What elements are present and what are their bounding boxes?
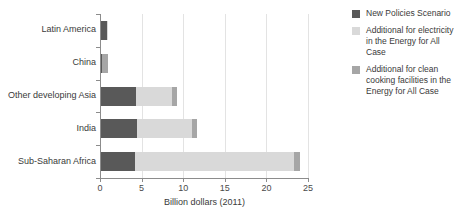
bar-segment — [137, 119, 192, 138]
category-label: Latin America — [0, 24, 96, 34]
legend: New Policies Scenario Additional for ele… — [352, 8, 456, 103]
legend-swatch-icon — [352, 10, 360, 18]
bar-row — [100, 21, 107, 40]
bar-segment — [172, 87, 177, 106]
bar-row — [100, 54, 108, 73]
x-tick — [100, 178, 101, 182]
gridline — [308, 14, 309, 178]
bar-segment — [136, 87, 173, 106]
x-axis-title: Billion dollars (2011) — [100, 197, 309, 207]
bar-segment — [135, 152, 294, 171]
x-tick-label: 5 — [139, 183, 144, 193]
bar-segment — [100, 87, 136, 106]
bar-segment — [294, 152, 300, 171]
category-label: India — [0, 123, 96, 133]
legend-label: Additional for electricity in the Energy… — [366, 25, 456, 58]
category-label: Other developing Asia — [0, 90, 96, 100]
x-tick-label: 25 — [303, 183, 313, 193]
legend-swatch-icon — [352, 66, 360, 74]
x-tick — [266, 178, 267, 182]
x-tick — [308, 178, 309, 182]
y-tick — [96, 145, 100, 146]
y-tick — [96, 178, 100, 179]
x-tick — [225, 178, 226, 182]
legend-label: New Policies Scenario — [366, 8, 451, 19]
category-label: Sub-Saharan Africa — [0, 156, 96, 166]
legend-swatch-icon — [352, 27, 360, 35]
bar-chart: 0510152025 Latin AmericaChinaOther devel… — [0, 0, 456, 215]
bar-segment — [102, 54, 108, 73]
legend-label: Additional for clean cooking facilities … — [366, 64, 456, 97]
bar-segment — [192, 119, 198, 138]
bar-row — [100, 152, 300, 171]
legend-item: Additional for clean cooking facilities … — [352, 64, 456, 97]
bar-row — [100, 87, 177, 106]
x-tick-label: 0 — [97, 183, 102, 193]
y-axis-line — [100, 14, 101, 178]
y-tick — [96, 14, 100, 15]
x-tick-label: 20 — [261, 183, 271, 193]
bar-segment — [100, 119, 137, 138]
category-label: China — [0, 57, 96, 67]
y-tick — [96, 80, 100, 81]
x-tick — [183, 178, 184, 182]
x-tick-label: 10 — [178, 183, 188, 193]
y-tick — [96, 47, 100, 48]
bar-row — [100, 119, 197, 138]
x-tick-label: 15 — [220, 183, 230, 193]
plot-area — [100, 14, 308, 178]
bar-segment — [100, 152, 135, 171]
legend-item: Additional for electricity in the Energy… — [352, 25, 456, 58]
x-axis-line — [100, 178, 309, 179]
x-tick — [142, 178, 143, 182]
legend-item: New Policies Scenario — [352, 8, 456, 19]
y-tick — [96, 112, 100, 113]
